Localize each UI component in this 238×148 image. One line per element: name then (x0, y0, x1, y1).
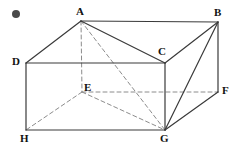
edge-A-G (81, 21, 165, 130)
vertex-label-b: B (214, 7, 221, 18)
edge-F-G (165, 92, 218, 130)
hidden-edges-group (26, 21, 218, 130)
vertex-label-f: F (222, 85, 229, 96)
vertex-label-e: E (84, 82, 91, 93)
edge-A-B (81, 21, 218, 22)
vertex-label-d: D (12, 56, 20, 67)
vertex-label-c: C (158, 46, 166, 57)
bullet-marker (12, 10, 20, 18)
edge-E-H (26, 92, 82, 130)
edge-A-D (26, 21, 81, 63)
edge-A-E (81, 21, 82, 92)
geometry-figure: ABCDEFGH (0, 0, 238, 148)
vertex-label-h: H (20, 133, 29, 144)
vertex-label-g: G (160, 133, 169, 144)
vertex-label-a: A (76, 6, 84, 17)
edge-E-G (82, 92, 165, 130)
edge-A-C (81, 21, 165, 63)
edge-B-C (165, 22, 218, 63)
edge-B-G (165, 22, 218, 130)
geometry-diagram-canvas (0, 0, 238, 148)
visible-edges-group (26, 21, 218, 130)
